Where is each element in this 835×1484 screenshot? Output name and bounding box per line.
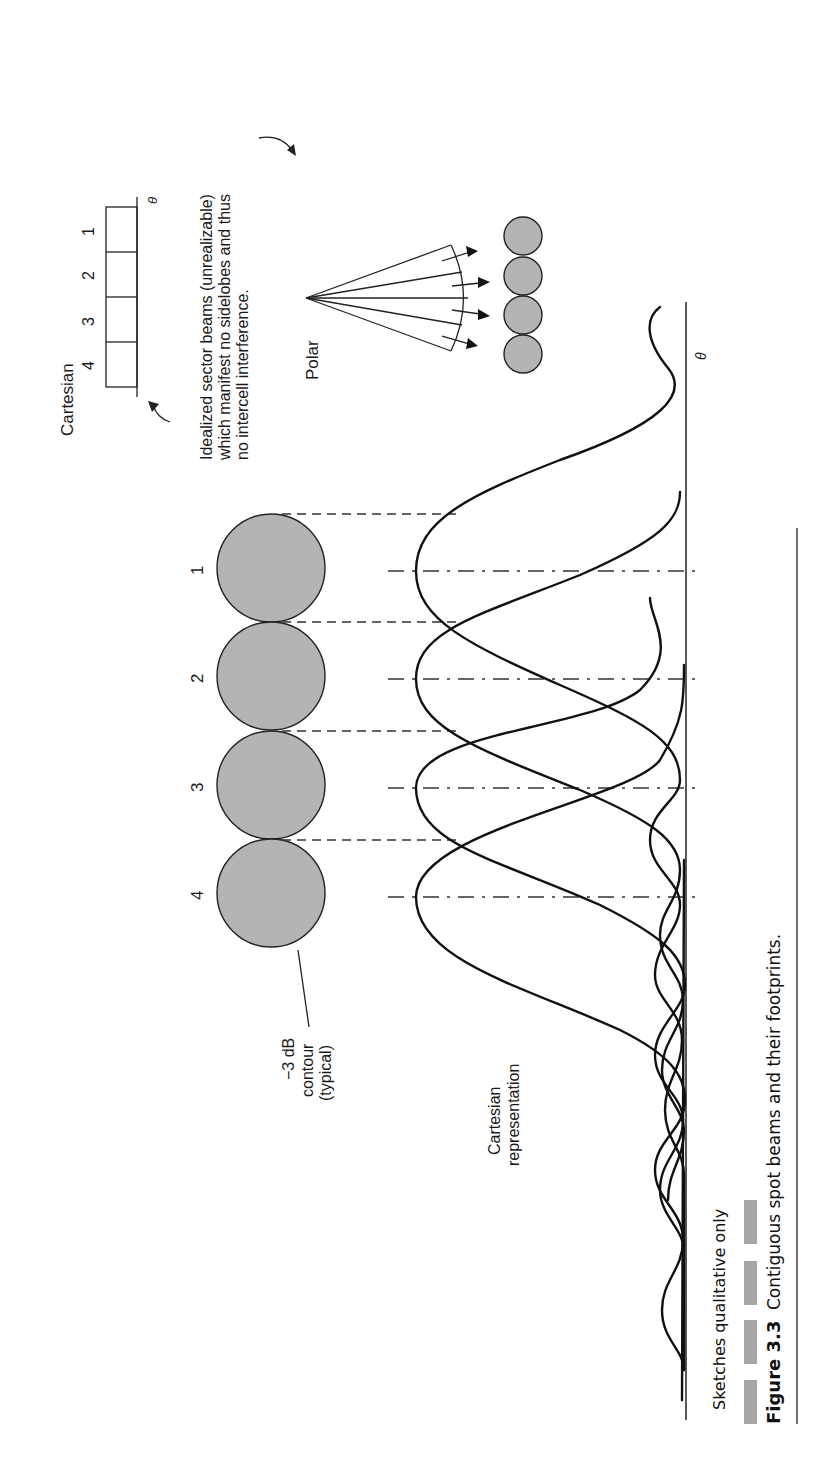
polar-footprint-circle — [504, 257, 542, 295]
cartesian-theta-label: θ — [145, 197, 160, 204]
idealized-note: Idealized sector beams (unrealizable) wh… — [198, 137, 296, 461]
footprint-circle-3 — [217, 731, 325, 839]
beam-curve-2 — [416, 492, 684, 1200]
footprint-circle-4 — [217, 839, 325, 947]
idealized-note-line1: Idealized sector beams (unrealizable) — [198, 194, 215, 460]
beam-curve-3 — [416, 598, 685, 1250]
figure-canvas: Cartesian 4 3 2 1 θ Idealized sector bea… — [0, 0, 835, 1484]
cartesian-title: Cartesian — [58, 363, 77, 436]
cartesian-sector-diagram: Cartesian 4 3 2 1 θ — [58, 197, 170, 436]
cartesian-representation-line2: representation — [505, 1064, 522, 1166]
sector-label-3: 3 — [80, 317, 97, 326]
footprint-label-4: 4 — [188, 891, 207, 900]
idealized-note-line3: no intercell interference. — [234, 289, 251, 460]
idealized-note-line2: which manifest no sidelobes and thus — [216, 194, 233, 461]
polar-footprint-circle — [504, 296, 542, 334]
polar-footprint-circle — [504, 217, 542, 255]
sector-label-4: 4 — [80, 361, 97, 370]
arrow-to-polar-icon — [259, 137, 292, 150]
contour-label-line3: (typical) — [317, 1045, 334, 1101]
footprint-circle-2 — [217, 622, 325, 730]
figure-number: Figure 3.3 — [763, 1321, 784, 1424]
sector-label-1: 1 — [80, 227, 97, 236]
theta-axis-label: θ — [693, 352, 709, 360]
cartesian-representation-line1: Cartesian — [486, 1087, 503, 1155]
footprint-circle-1 — [217, 514, 325, 622]
caption-decorative-bars — [744, 1200, 757, 1424]
footprint-label-1: 1 — [188, 566, 207, 575]
contour-label-line1: −3 dB — [280, 1038, 297, 1080]
polar-sector-diagram: Polar — [303, 217, 542, 380]
footprint-label-3: 3 — [188, 783, 207, 792]
beam-pattern-curves — [416, 307, 685, 1400]
beam-footprints: 1 2 3 4 −3 dB contour (typical) — [188, 514, 334, 1101]
qualitative-note: Sketches qualitative only — [710, 1209, 729, 1410]
sector-label-2: 2 — [80, 271, 97, 280]
polar-footprint-circle — [504, 335, 542, 373]
beam-curve-1 — [416, 307, 684, 1175]
figure-caption: Contiguous spot beams and their footprin… — [764, 934, 784, 1310]
contour-leader-line — [298, 950, 309, 1027]
beam-curve-4 — [416, 665, 685, 1370]
polar-title: Polar — [303, 340, 322, 380]
contour-label-line2: contour — [299, 1043, 316, 1097]
footprint-label-2: 2 — [188, 674, 207, 683]
